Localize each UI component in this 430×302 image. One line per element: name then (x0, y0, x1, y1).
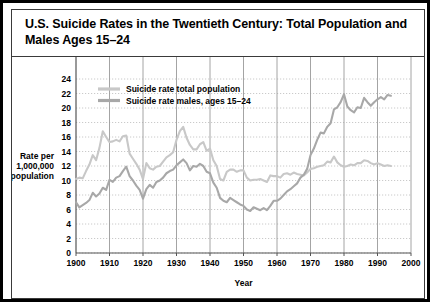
y-tick-label: 6 (66, 205, 71, 215)
x-tick-label: 1960 (268, 258, 287, 268)
x-tick-label: 1950 (234, 258, 253, 268)
suicide-rates-line-chart: 024681012141618202224 190019101920193019… (12, 57, 426, 299)
x-tick-label: 1920 (134, 258, 153, 268)
y-tick-label: 14 (62, 147, 72, 157)
y-tick-label: 24 (62, 74, 72, 84)
legend-label: Suicide rate males, ages 15–24 (126, 96, 251, 106)
page-title: U.S. Suicide Rates in the Twentieth Cent… (25, 16, 414, 48)
y-tick-label: 20 (62, 103, 72, 113)
x-tick-label: 1900 (67, 258, 86, 268)
chart-legend: Suicide rate total populationSuicide rat… (98, 84, 251, 106)
y-tick-label: 22 (62, 89, 72, 99)
chart-area: 024681012141618202224 190019101920193019… (12, 57, 426, 299)
y-tick-label: 16 (62, 132, 72, 142)
x-tick-label: 1970 (301, 258, 320, 268)
y-axis-title: Rate per1,000,000population (12, 151, 55, 181)
y-axis-title-line: Rate per (20, 151, 55, 161)
x-tick-label: 1910 (100, 258, 119, 268)
figure-inner-border: U.S. Suicide Rates in the Twentieth Cent… (11, 9, 425, 299)
y-axis-title-line: population (12, 171, 54, 181)
x-tick-label: 1930 (167, 258, 186, 268)
y-tick-label: 4 (66, 219, 71, 229)
legend-label: Suicide rate total population (126, 84, 240, 94)
y-axis-tick-labels: 024681012141618202224 (62, 74, 72, 258)
y-axis-title-line: 1,000,000 (16, 161, 54, 171)
y-tick-label: 12 (62, 161, 72, 171)
y-tick-label: 18 (62, 118, 72, 128)
x-tick-label: 2000 (402, 258, 421, 268)
y-tick-label: 2 (66, 234, 71, 244)
y-tick-label: 8 (66, 190, 71, 200)
x-tick-label: 1940 (201, 258, 220, 268)
y-tick-label: 10 (62, 176, 72, 186)
title-bar: U.S. Suicide Rates in the Twentieth Cent… (12, 10, 424, 57)
figure-frame: U.S. Suicide Rates in the Twentieth Cent… (0, 0, 430, 302)
x-tick-label: 1980 (335, 258, 354, 268)
x-axis-tick-labels: 1900191019201930194019501960197019801990… (67, 258, 421, 268)
y-tick-label: 0 (66, 248, 71, 258)
x-tick-label: 1990 (368, 258, 387, 268)
x-axis-title: Year (235, 278, 254, 288)
